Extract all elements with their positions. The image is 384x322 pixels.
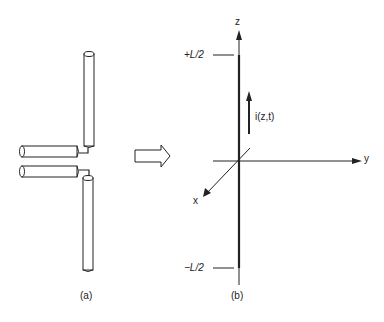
y-arrowhead-icon (352, 158, 362, 164)
bottom-length-marker: −L/2 (184, 263, 204, 273)
upper-horizontal-cylinder (20, 146, 79, 157)
top-length-marker: +L/2 (184, 50, 204, 60)
current-arrowhead-icon (246, 91, 252, 101)
upper-vertical-cylinder (84, 52, 94, 148)
panel-a-caption: (a) (80, 291, 92, 301)
current-label: i(z,t) (255, 112, 274, 122)
lower-horizontal-cylinder (20, 166, 79, 177)
lower-vertical-cylinder (83, 176, 93, 272)
panel-b-caption: (b) (231, 291, 243, 301)
y-axis-label: y (364, 154, 369, 164)
coaxial-dipole (20, 52, 95, 272)
coordinate-axes (203, 30, 362, 285)
z-arrowhead-icon (236, 30, 242, 40)
x-axis-label: x (193, 196, 198, 206)
hollow-right-arrow-icon (135, 145, 170, 167)
z-axis-label: z (235, 17, 240, 27)
